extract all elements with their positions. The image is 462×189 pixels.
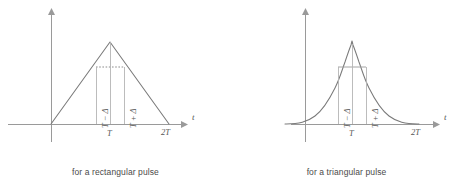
y-axis-arrow-icon (302, 8, 309, 15)
tick-label-T-left: T (107, 128, 112, 138)
y-axis-arrow-icon (48, 8, 55, 15)
caption-triangular: for a triangular pulse (231, 167, 462, 177)
figure-panel-triangular: T − Δ T T + Δ 2T t for a triangular puls… (231, 0, 462, 189)
x-axis-arrow-icon (181, 121, 188, 128)
y-axis-rectangular (48, 8, 55, 142)
curve-rectangular-autocorrelation (51, 42, 169, 124)
caption-rectangular: for a rectangular pulse (0, 167, 231, 177)
tick-label-2T-right: 2T (411, 127, 420, 137)
tick-label-T-minus-delta-right: T − Δ (342, 108, 352, 128)
tick-label-T-right: T (349, 128, 354, 138)
plot-triangular (231, 0, 462, 189)
x-axis-arrow-icon (433, 121, 440, 128)
tick-label-T-minus-delta-left: T − Δ (100, 108, 110, 128)
tick-label-2T-left: 2T (161, 127, 170, 137)
plot-rectangular (0, 0, 231, 189)
x-axis-name-left: t (192, 112, 195, 122)
x-axis-name-right: t (444, 112, 447, 122)
figure-panel-rectangular: T − Δ T T + Δ 2T t for a rectangular pul… (0, 0, 231, 189)
tick-label-T-plus-delta-left: T + Δ (128, 108, 138, 128)
curve-triangular-autocorrelation (305, 72, 362, 124)
tick-label-T-plus-delta-right: T + Δ (370, 108, 380, 128)
